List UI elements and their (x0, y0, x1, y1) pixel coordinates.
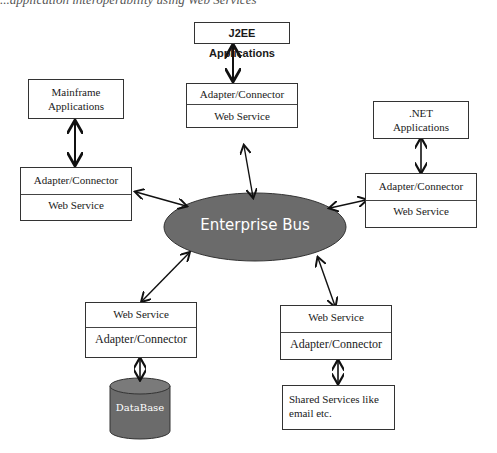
database-adapter-label: Adapter/Connector (86, 327, 196, 356)
arrow-shared-bus (318, 258, 335, 306)
j2ee-adapter-label: Adapter/Connector (187, 84, 297, 104)
mainframe-adapter-label: Adapter/Connector (21, 168, 131, 194)
database-adapter-stack: Web Service Adapter/Connector (85, 302, 197, 358)
j2ee-applications-box: J2EE Applications (194, 22, 290, 44)
mainframe-label-line1: Mainframe (29, 85, 123, 99)
shared-services-box: Shared Services like email etc. (282, 385, 395, 430)
mainframe-webservice-label: Web Service (21, 194, 131, 219)
j2ee-adapter-stack: Adapter/Connector Web Service (186, 83, 298, 128)
mainframe-adapter-stack: Adapter/Connector Web Service (20, 167, 132, 221)
shared-webservice-label: Web Service (281, 306, 391, 332)
database-webservice-label: Web Service (86, 303, 196, 327)
arrow-database-bus (142, 253, 189, 301)
shared-adapter-stack: Web Service Adapter/Connector (280, 305, 392, 360)
arrow-mainframe-bus (136, 192, 186, 206)
dotnet-adapter-stack: Adapter/Connector Web Service (365, 173, 477, 228)
dotnet-adapter-label: Adapter/Connector (366, 174, 476, 200)
database-label: DataBase (110, 402, 170, 413)
shared-services-line1: Shared Services like (283, 392, 394, 406)
mainframe-label-line2: Applications (29, 99, 123, 113)
dotnet-label-line2: Applications (374, 120, 468, 134)
mainframe-applications-box: Mainframe Applications (28, 79, 124, 119)
shared-services-line2: email etc. (283, 406, 394, 420)
arrow-j2ee-bus (244, 146, 253, 197)
enterprise-bus-label: Enterprise Bus (164, 216, 346, 234)
dotnet-webservice-label: Web Service (366, 200, 476, 225)
j2ee-webservice-label: Web Service (187, 104, 297, 127)
arrow-dotnet-bus (330, 200, 366, 208)
j2ee-applications-label: J2EE Applications (195, 23, 289, 63)
dotnet-applications-box: .NET Applications (373, 101, 469, 139)
dotnet-label-line1: .NET (374, 106, 468, 120)
shared-adapter-label: Adapter/Connector (281, 332, 391, 359)
